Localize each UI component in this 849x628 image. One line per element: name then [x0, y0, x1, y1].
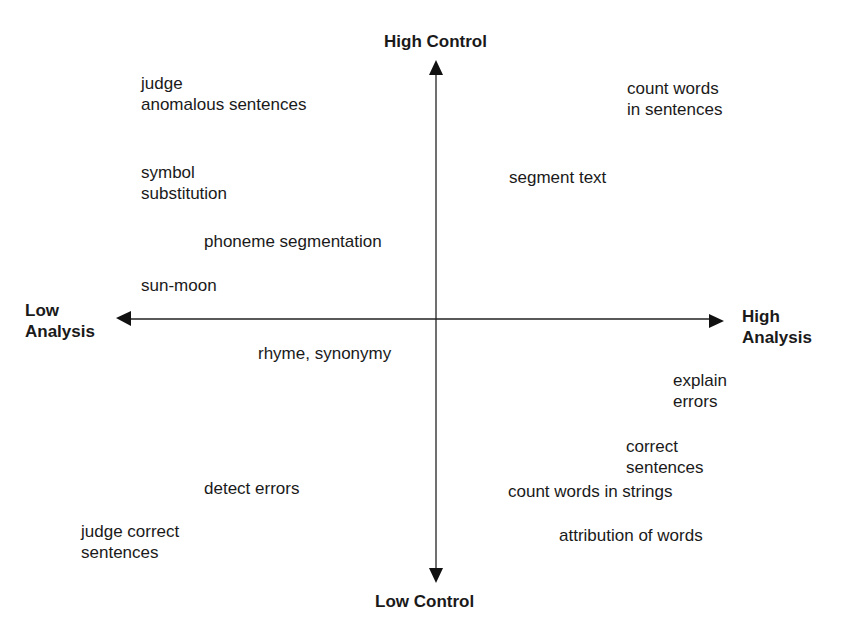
task-item-line: sun-moon	[141, 275, 217, 296]
task-item: judgeanomalous sentences	[141, 73, 306, 115]
arrow-right-icon	[709, 314, 724, 328]
task-item-line: attribution of words	[559, 525, 703, 546]
task-item-line: symbol	[141, 162, 227, 183]
task-item-line: sentences	[626, 457, 704, 478]
arrow-down-icon	[429, 568, 443, 583]
task-item: attribution of words	[559, 525, 703, 546]
task-item: sun-moon	[141, 275, 217, 296]
axis-label-high-control: High Control	[384, 31, 487, 52]
axis-label-low-analysis: Low Analysis	[25, 300, 95, 342]
task-item: count words in strings	[508, 481, 672, 502]
task-item-line: phoneme segmentation	[204, 231, 382, 252]
axis-label-low-analysis-line2: Analysis	[25, 321, 95, 342]
task-item: phoneme segmentation	[204, 231, 382, 252]
task-item-line: correct	[626, 436, 704, 457]
axis-label-low-analysis-line1: Low	[25, 300, 95, 321]
task-item-line: sentences	[81, 542, 179, 563]
arrow-left-icon	[116, 311, 131, 326]
task-item: correctsentences	[626, 436, 704, 478]
arrow-up-icon	[429, 60, 443, 75]
axis-label-high-analysis-line2: Analysis	[742, 327, 812, 348]
task-item: segment text	[509, 167, 606, 188]
task-item: rhyme, synonymy	[258, 343, 391, 364]
task-item-line: explain	[673, 370, 727, 391]
task-item: detect errors	[204, 478, 299, 499]
axis-label-high-analysis-line1: High	[742, 306, 812, 327]
axis-label-high-analysis: High Analysis	[742, 306, 812, 348]
task-item-line: rhyme, synonymy	[258, 343, 391, 364]
task-item: judge correctsentences	[81, 521, 179, 563]
task-item-line: judge correct	[81, 521, 179, 542]
task-item-line: anomalous sentences	[141, 94, 306, 115]
task-item-line: count words	[627, 78, 722, 99]
task-item: count wordsin sentences	[627, 78, 722, 120]
task-item-line: in sentences	[627, 99, 722, 120]
task-item: explainerrors	[673, 370, 727, 412]
task-item-line: judge	[141, 73, 306, 94]
task-item-line: segment text	[509, 167, 606, 188]
task-item-line: count words in strings	[508, 481, 672, 502]
task-item-line: substitution	[141, 183, 227, 204]
axis-label-low-control: Low Control	[375, 591, 474, 612]
task-item-line: detect errors	[204, 478, 299, 499]
task-item: symbolsubstitution	[141, 162, 227, 204]
task-item-line: errors	[673, 391, 727, 412]
